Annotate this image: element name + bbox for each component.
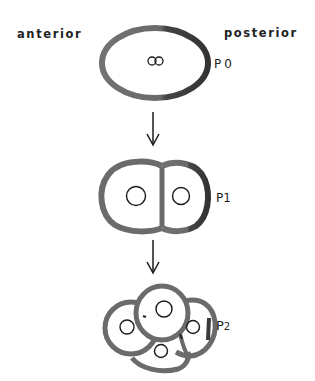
p2-nucleus-ventral <box>155 345 168 358</box>
arrow-down-icon <box>147 112 159 145</box>
posterior-label: posterior <box>224 26 298 40</box>
p2-nucleus-anterior <box>120 320 134 334</box>
stage-label-p2: P2 <box>216 318 230 333</box>
stage-p0 <box>102 28 208 98</box>
p1-nucleus-posterior <box>173 188 190 205</box>
anterior-label: anterior <box>17 27 82 41</box>
stage-p2 <box>105 286 215 371</box>
p1-cell-posterior <box>162 163 208 231</box>
stage-label-p0: P0 <box>214 57 235 71</box>
p1-nucleus-anterior <box>127 187 146 206</box>
stage-label-p1: P1 <box>216 191 231 205</box>
p1-cell-anterior <box>101 162 162 232</box>
arrow-down-icon <box>147 240 159 273</box>
stage-label-p2-main: P <box>216 318 224 333</box>
p2-cell-dorsal <box>136 286 188 340</box>
p2-nucleus-posterior <box>187 321 200 334</box>
stage-p1 <box>101 162 208 232</box>
embryo-division-diagram <box>0 0 315 381</box>
stage-label-p2-sub: 2 <box>224 321 230 332</box>
